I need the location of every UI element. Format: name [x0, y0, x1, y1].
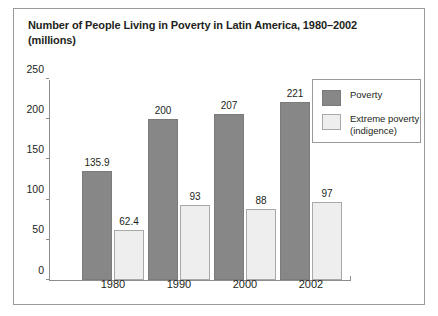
bar-extreme-poverty-1980[interactable]: 62.4 [114, 230, 144, 280]
y-axis-tick-mark [46, 239, 49, 240]
y-axis-tick-mark [46, 78, 49, 79]
chart-figure: Number of People Living in Poverty in La… [13, 8, 425, 305]
chart-title-line-2: (millions) [28, 34, 76, 46]
bar-value-label: 97 [321, 189, 332, 199]
y-axis-tick-mark [46, 279, 49, 280]
y-axis-tick-mark [46, 118, 49, 119]
y-axis-tick-mark [46, 158, 49, 159]
legend-swatch-extreme-poverty [322, 114, 341, 130]
y-axis-tick-100: 100 [16, 184, 44, 195]
legend-label-extreme-poverty: Extreme poverty (indigence) [350, 113, 419, 136]
bar-extreme-poverty-2000[interactable]: 88 [246, 209, 276, 280]
bar-value-label: 221 [287, 89, 304, 99]
bar-value-label: 93 [189, 192, 200, 202]
legend-item-poverty: Poverty [322, 89, 382, 106]
y-axis-tick-50: 50 [16, 224, 44, 235]
legend-item-extreme-poverty: Extreme poverty (indigence) [322, 113, 419, 136]
x-axis-tick-1990: 1990 [148, 279, 210, 290]
x-axis-tick-1980: 1980 [82, 279, 144, 290]
bar-value-label: 207 [221, 101, 238, 111]
plot-area: 050100150200250 135.962.4200932078822197… [49, 72, 351, 281]
bar-poverty-2000[interactable]: 207 [214, 114, 244, 280]
bar-value-label: 135.9 [84, 158, 109, 168]
legend-swatch-poverty [322, 90, 341, 106]
bar-extreme-poverty-1990[interactable]: 93 [180, 205, 210, 280]
bar-group-1980: 135.962.4 [82, 72, 144, 280]
y-axis-tick-200: 200 [16, 103, 44, 114]
chart-title-line-1: Number of People Living in Poverty in La… [28, 19, 357, 31]
bar-value-label: 62.4 [119, 217, 138, 227]
bar-extreme-poverty-2002[interactable]: 97 [312, 202, 342, 280]
chart-legend: Poverty Extreme poverty (indigence) [312, 79, 421, 143]
legend-label-poverty: Poverty [350, 89, 382, 101]
bar-poverty-2002[interactable]: 221 [280, 102, 310, 280]
bar-poverty-1990[interactable]: 200 [148, 119, 178, 280]
chart-title: Number of People Living in Poverty in La… [28, 18, 398, 48]
y-axis-tick-mark [46, 199, 49, 200]
bars-layer: 135.962.4200932078822197 [50, 72, 351, 280]
bar-value-label: 200 [155, 106, 172, 116]
bar-value-label: 88 [255, 196, 266, 206]
bar-group-1990: 20093 [148, 72, 210, 280]
y-axis-tick-150: 150 [16, 144, 44, 155]
y-axis-tick-0: 0 [16, 264, 44, 275]
x-axis-tick-2000: 2000 [214, 279, 276, 290]
bar-poverty-1980[interactable]: 135.9 [82, 171, 112, 280]
bar-group-2000: 20788 [214, 72, 276, 280]
y-axis-tick-250: 250 [16, 63, 44, 74]
x-axis-tick-2002: 2002 [280, 279, 342, 290]
